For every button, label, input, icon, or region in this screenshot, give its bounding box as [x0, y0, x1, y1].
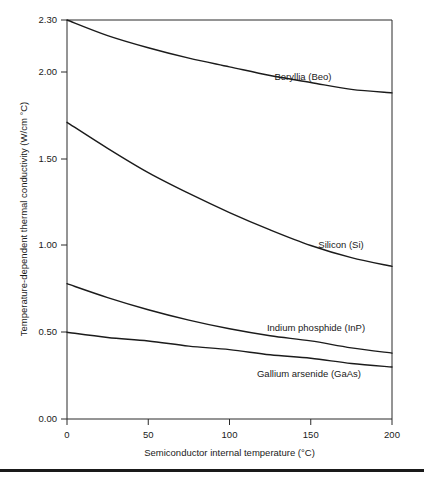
curve-beryllia-beo	[67, 20, 392, 93]
series-label-beryllia: Beryllia (Beo)	[274, 71, 331, 82]
x-axis-tick-labels: 0 50 100 150 200	[64, 429, 400, 440]
y-tick-label-4: 2.00	[39, 66, 58, 77]
x-tick-label-2: 100	[222, 429, 238, 440]
y-tick-label-5: 2.30	[39, 14, 58, 25]
y-tick-label-2: 1.00	[39, 239, 58, 250]
series-label-silicon: Silicon (Si)	[318, 239, 363, 250]
x-tick-label-0: 0	[64, 429, 69, 440]
x-axis-title: Semiconductor internal temperature (°C)	[144, 447, 315, 458]
y-axis-title: Temperature-dependent thermal conductivi…	[18, 102, 29, 337]
y-tick-label-0: 0.00	[39, 413, 58, 424]
x-tick-label-1: 50	[143, 429, 154, 440]
x-axis-ticks	[67, 419, 392, 425]
y-axis-ticks	[61, 20, 67, 419]
plot-frame	[67, 20, 392, 419]
y-tick-label-1: 0.50	[39, 326, 58, 337]
x-tick-label-4: 200	[384, 429, 400, 440]
thermal-conductivity-line-chart: 0.00 0.50 1.00 1.50 2.00 2.30 0 50 100 1…	[0, 0, 424, 481]
data-curves	[67, 20, 392, 367]
series-label-indium-phosphide: Indium phosphide (InP)	[267, 322, 365, 333]
x-tick-label-3: 150	[303, 429, 319, 440]
curve-gallium-arsenide-gaas	[67, 332, 392, 367]
series-label-gallium-arsenide: Gallium arsenide (GaAs)	[257, 368, 361, 379]
footer-divider	[0, 469, 424, 472]
y-axis-tick-labels: 0.00 0.50 1.00 1.50 2.00 2.30	[39, 14, 58, 424]
y-tick-label-3: 1.50	[39, 153, 58, 164]
curve-indium-phosphide-inp	[67, 284, 392, 353]
figure-container: 0.00 0.50 1.00 1.50 2.00 2.30 0 50 100 1…	[0, 0, 424, 481]
series-labels: Beryllia (Beo) Silicon (Si) Indium phosp…	[257, 71, 365, 379]
